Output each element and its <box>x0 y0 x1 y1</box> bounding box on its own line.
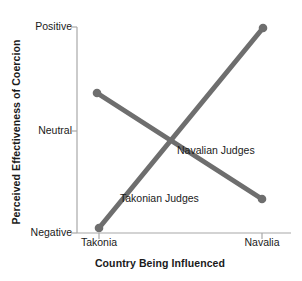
data-point-navalian-navalia <box>258 195 267 204</box>
series-annotation-navalian-judges: Navalian Judges <box>177 144 255 156</box>
data-point-navalian-takonia <box>93 89 102 98</box>
plot-area <box>0 0 302 281</box>
data-point-takonian-takonia <box>95 224 104 233</box>
slope-chart: Perceived Effectiveness of Coercion Posi… <box>0 0 302 281</box>
series-annotation-takonian-judges: Takonian Judges <box>120 192 199 204</box>
data-point-takonian-navalia <box>259 24 268 33</box>
